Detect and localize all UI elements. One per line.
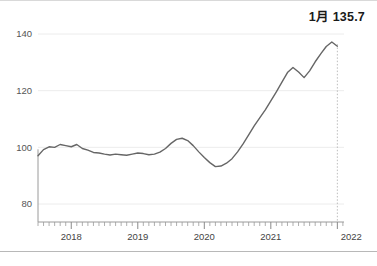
gridlines-group [38,34,344,204]
data-series-group [38,42,337,167]
y-axis-tick-label: 140 [16,28,32,39]
footer-text-clipped [8,258,248,265]
x-axis-tick-label: 2022 [341,231,362,242]
series-line-index [38,42,337,167]
bottom-divider [0,251,377,252]
y-axis-tick-label: 100 [16,142,32,153]
x-axis-tick-label: 2020 [194,231,215,242]
y-axis-tick-label: 80 [21,198,32,209]
x-axis-labels-group: 20182019202020212022 [61,231,362,242]
y-axis-labels-group: 14012010080 [16,28,32,209]
x-axis-group [38,149,344,229]
x-axis-tick-label: 2019 [127,231,148,242]
chart-figure: 1月 135.7 14012010080 2018201920202021202… [0,0,377,266]
x-axis-tick-label: 2021 [260,231,281,242]
line-chart-plot: 14012010080 20182019202020212022 [0,0,377,252]
x-axis-tick-label: 2018 [61,231,82,242]
y-axis-tick-label: 120 [16,85,32,96]
